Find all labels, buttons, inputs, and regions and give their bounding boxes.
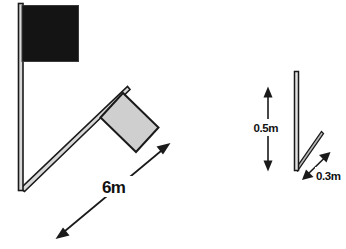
dimension-0_3m-label: 0.3m — [316, 170, 341, 182]
vertical-post — [295, 72, 299, 171]
dimension-0_5m-label: 0.5m — [254, 122, 279, 134]
technical-diagram: 6m 0.5m — [0, 0, 346, 249]
diagram-canvas: 6m 0.5m — [0, 0, 346, 249]
vertical-post-body — [295, 72, 299, 171]
dark-flag — [22, 6, 79, 62]
dark-flag-body — [22, 6, 79, 62]
dimension-6m-label: 6m — [102, 178, 126, 197]
